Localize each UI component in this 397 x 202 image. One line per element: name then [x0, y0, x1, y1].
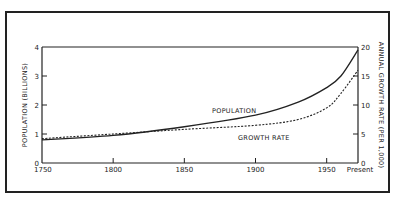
y-tick-label: 0 [35, 160, 39, 168]
y-tick-label: 3 [35, 73, 39, 81]
x-tick-label: 1950 [318, 166, 336, 174]
population-growth-chart: 17501800185019001950Present0123405101520… [0, 0, 397, 202]
y2-tick-label: 15 [361, 73, 370, 81]
axes [42, 47, 358, 163]
y-tick-label: 4 [35, 44, 40, 52]
population-line [42, 50, 358, 140]
y-tick-label: 1 [35, 131, 39, 139]
left-axis-title: POPULATION (BILLIONS) [21, 63, 29, 147]
y2-tick-label: 0 [361, 160, 365, 168]
growth-rate-line [42, 70, 358, 138]
y2-tick-label: 20 [361, 44, 370, 52]
growth-rate-annotation: GROWTH RATE [238, 134, 290, 142]
x-tick-label: 1800 [104, 166, 122, 174]
right-axis-title: ANNUAL GROWTH RATE (PER 1,000) [377, 42, 385, 169]
y-tick-label: 2 [35, 102, 39, 110]
y2-tick-label: 5 [361, 131, 365, 139]
x-tick-label: 1900 [247, 166, 265, 174]
ticks: 17501800185019001950Present0123405101520 [34, 44, 373, 175]
x-tick-label: 1850 [175, 166, 193, 174]
population-annotation: POPULATION [212, 107, 256, 115]
y2-tick-label: 10 [361, 102, 370, 110]
